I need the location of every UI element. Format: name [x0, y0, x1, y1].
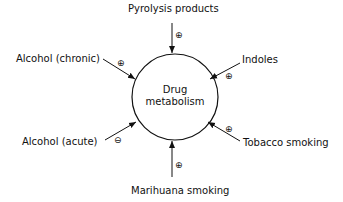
label-pyrolysis-products: Pyrolysis products [128, 3, 219, 15]
plus-circle-icon: ⊕ [117, 58, 125, 68]
label-marihuana-smoking: Marihuana smoking [131, 185, 229, 197]
center-node-label: Drug metabolism [133, 84, 217, 108]
plus-circle-icon: ⊕ [225, 124, 233, 134]
label-alcohol-acute: Alcohol (acute) [22, 136, 98, 148]
center-label-line1: Drug [133, 84, 217, 96]
plus-circle-icon: ⊕ [175, 160, 183, 170]
arrow-tobacco [208, 122, 240, 141]
plus-circle-icon: ⊕ [225, 71, 233, 81]
minus-circle-icon: ⊖ [114, 135, 122, 145]
plus-circle-icon: ⊕ [175, 30, 183, 40]
label-alcohol-chronic: Alcohol (chronic) [16, 53, 100, 65]
center-label-line2: metabolism [133, 96, 217, 108]
label-indoles: Indoles [242, 54, 278, 66]
label-tobacco-smoking: Tobacco smoking [243, 137, 329, 149]
